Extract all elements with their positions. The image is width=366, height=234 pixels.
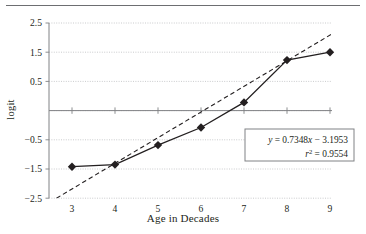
- figure-container: 2.5 1.5 0.5 −0.5 −1.5 −2.5 3 4 5 6 7 8 9: [0, 0, 366, 234]
- data-point-marker: [326, 48, 334, 56]
- y-tick-label: 0.5: [30, 76, 42, 87]
- y-tick-label: −1.5: [25, 163, 43, 174]
- equation-tail: − 3.1953: [312, 135, 348, 145]
- data-point-marker: [197, 123, 205, 131]
- regression-trendline: [57, 34, 333, 198]
- y-axis-title: logit: [5, 83, 16, 137]
- equation-line: y = 0.7348x − 3.1953: [267, 135, 348, 145]
- regression-equation-box: y = 0.7348x − 3.1953 r2 = 0.9554: [245, 129, 354, 161]
- data-point-marker: [68, 163, 76, 171]
- x-axis-title: Age in Decades: [0, 212, 366, 224]
- equation-body: = 0.7348: [272, 135, 308, 145]
- data-point-marker: [154, 141, 162, 149]
- y-tick-label: 2.5: [30, 17, 42, 28]
- r-squared-line: r2 = 0.9554: [305, 147, 348, 159]
- zero-baseline: [49, 107, 332, 113]
- y-axis-title-wrapper: logit: [2, 78, 18, 148]
- chart-canvas: 2.5 1.5 0.5 −0.5 −1.5 −2.5 3 4 5 6 7 8 9: [0, 0, 366, 234]
- y-tick-label: −0.5: [25, 134, 43, 145]
- y-axis-ticks: [46, 23, 50, 198]
- y-tick-label: 1.5: [30, 47, 42, 58]
- y-tick-label: −2.5: [25, 193, 43, 204]
- y-axis-tick-labels: 2.5 1.5 0.5 −0.5 −1.5 −2.5: [25, 17, 43, 203]
- r-squared-value: = 0.9554: [312, 149, 348, 159]
